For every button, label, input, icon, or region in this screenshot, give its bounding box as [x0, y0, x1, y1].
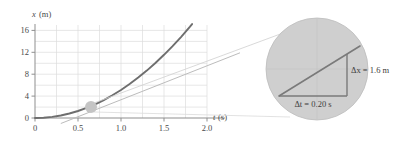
axis-titles: x (m) t (s) [31, 9, 227, 122]
x-tick-05: 0.5 [73, 123, 84, 133]
y-tick-labels: 0 4 8 12 16 [21, 25, 30, 123]
y-tick-8: 8 [25, 69, 29, 79]
physics-figure: 0 4 8 12 16 0 0.5 1.0 1.5 2.0 x (m) t (s… [0, 0, 414, 141]
x-tick-0: 0 [33, 123, 37, 133]
y-axis-title: x [31, 9, 36, 19]
x-tick-15: 1.5 [159, 123, 170, 133]
y-tick-12: 12 [21, 47, 30, 57]
y-tick-0: 0 [25, 113, 29, 123]
y-tick-16: 16 [21, 25, 30, 35]
x-axis-title: t [213, 112, 216, 122]
position-curve [35, 24, 192, 118]
y-axis-unit: (m) [39, 9, 51, 19]
leader-line-upper [94, 33, 283, 103]
y-tick-4: 4 [25, 91, 30, 101]
figure-canvas: 0 4 8 12 16 0 0.5 1.0 1.5 2.0 x (m) t (s… [0, 0, 414, 141]
plot-grid [35, 25, 207, 118]
delta-t-annotation: Δt = 0.20 s [294, 99, 331, 109]
magnifier-callout: Δx = 1.6 m Δt = 0.20 s [266, 18, 390, 120]
x-tick-20: 2.0 [202, 123, 213, 133]
x-axis-unit: (s) [218, 112, 227, 122]
x-tick-labels: 0 0.5 1.0 1.5 2.0 [33, 123, 212, 133]
callout-leader-lines [94, 33, 290, 117]
delta-x-annotation: Δx = 1.6 m [351, 65, 390, 75]
leader-line-lower [94, 112, 290, 117]
x-tick-10: 1.0 [116, 123, 127, 133]
